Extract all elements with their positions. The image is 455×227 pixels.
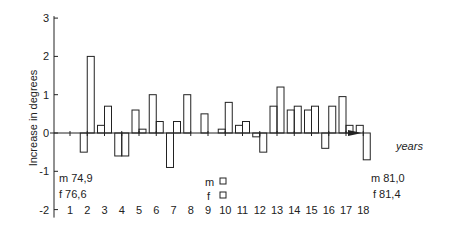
bar-chart: -2-10123123456789101112131415161718 Incr… [0,0,455,227]
bar-f [294,106,301,133]
x-tick-label: 10 [219,204,231,216]
x-tick-label: 14 [288,204,300,216]
x-tick-label: 8 [188,204,194,216]
y-axis-label: Increase in degrees [27,69,39,166]
bar-f [260,133,267,152]
bar-f [87,56,94,133]
bar-m [132,110,139,133]
bar-m [253,133,260,137]
bar-m [98,125,105,133]
bar-f [156,122,163,133]
bar-m [322,133,329,148]
y-tick-label: -2 [39,204,49,216]
end-annotation-m: m 81,0 [371,172,405,184]
bar-f [122,133,129,156]
x-tick-label: 13 [271,204,283,216]
bar-m [339,97,346,133]
x-tick-label: 5 [136,204,142,216]
bar-f [329,106,336,133]
bars [80,56,370,167]
bar-m [201,114,208,133]
y-tick-label: 1 [43,89,49,101]
x-tick-label: 1 [67,204,73,216]
bar-f [174,122,181,133]
y-tick-label: 3 [43,12,49,24]
bar-m [184,95,191,133]
legend-m-swatch [220,178,226,184]
bar-f [139,129,146,133]
x-tick-label: 12 [254,204,266,216]
y-tick-label: 2 [43,50,49,62]
x-tick-label: 18 [357,204,369,216]
x-tick-label: 2 [84,204,90,216]
bar-f [225,102,232,133]
x-tick-label: 7 [170,204,176,216]
bar-f [243,122,250,133]
legend-f-swatch [220,192,226,198]
bar-f [105,106,112,133]
x-tick-label: 4 [119,204,125,216]
x-tick-label: 15 [305,204,317,216]
bar-m [356,125,363,133]
legend-m-label: m [205,176,214,188]
y-tick-label: -1 [39,165,49,177]
start-annotation-f: f 76,6 [59,188,87,200]
bar-m [167,133,174,167]
bar-m [287,110,294,133]
bar-m [115,133,122,156]
bar-m [270,106,277,133]
bar-f [312,106,319,133]
x-tick-label: 9 [205,204,211,216]
bar-m [305,110,312,133]
bar-f [363,133,370,160]
y-tick-label: 0 [43,127,49,139]
bar-m [218,129,225,133]
x-tick-label: 17 [340,204,352,216]
bar-m [236,125,243,133]
bar-m [149,95,156,133]
legend-f-label: f [207,190,211,202]
bar-f [277,87,284,133]
x-tick-label: 3 [101,204,107,216]
end-annotation-f: f 81,4 [373,188,401,200]
x-tick-label: 11 [237,204,248,216]
x-tick-label: 6 [153,204,159,216]
bar-m [80,133,87,152]
start-annotation-m: m 74,9 [59,172,93,184]
x-tick-label: 16 [323,204,335,216]
x-axis-label: years [395,140,423,152]
